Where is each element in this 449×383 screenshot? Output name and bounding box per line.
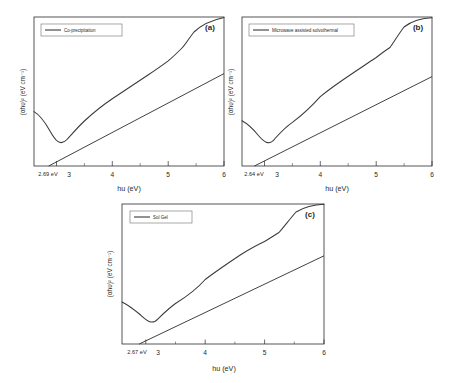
band-gap-annotation-b: 2.64 eV <box>244 171 264 177</box>
x-tick-label-3-b: 3 <box>275 171 279 178</box>
x-tick-label-4-a: 4 <box>110 171 114 178</box>
x-axis-ticks-a <box>57 161 225 166</box>
panel-label-b: (b) <box>413 23 424 32</box>
x-tick-label-3-c: 3 <box>156 349 160 356</box>
legend-label-c: Sol Gel <box>153 215 168 220</box>
x-axis-title-c: hu (eV) <box>212 364 236 373</box>
legend-label-a: Co-precipitation <box>64 28 96 33</box>
panel-c: Sol Gel (c) 2.67 eV 3 4 5 6 hu (eV) (αhυ… <box>98 196 340 382</box>
tauc-fit-line-c <box>139 256 324 344</box>
x-tick-label-4-b: 4 <box>318 171 322 178</box>
x-axis-title-b: hu (eV) <box>325 184 349 193</box>
x-tick-label-5-c: 5 <box>263 349 267 356</box>
legend-label-b: Microwave assisted solvothermal <box>272 28 338 33</box>
tauc-plot-figure: Co-precipitation (a) 2.69 eV 3 4 5 6 hu … <box>0 0 449 383</box>
x-axis-title-a: hu (eV) <box>117 184 141 193</box>
plot-frame-a <box>34 17 224 166</box>
panel-label-a: (a) <box>205 23 215 32</box>
plot-frame-b <box>242 17 432 166</box>
panel-b: Microwave assisted solvothermal (b) 2.64… <box>222 8 438 196</box>
band-gap-annotation-c: 2.67 eV <box>127 349 147 355</box>
plot-frame-c <box>122 204 324 344</box>
x-tick-label-4-c: 4 <box>203 349 207 356</box>
y-axis-title-c: (αhυ)² (eV cm⁻¹) <box>106 251 114 297</box>
y-axis-title-b: (αhυ)² (eV cm⁻¹) <box>227 69 235 115</box>
x-axis-ticks-b <box>265 161 433 166</box>
panel-a: Co-precipitation (a) 2.69 eV 3 4 5 6 hu … <box>14 8 230 196</box>
x-tick-label-6-c: 6 <box>322 349 326 356</box>
panel-label-c: (c) <box>305 210 315 219</box>
x-axis-ticks-c <box>146 340 324 345</box>
tauc-fit-line-a <box>49 74 224 166</box>
legend-b[interactable]: Microwave assisted solvothermal <box>249 24 354 36</box>
x-tick-label-3-a: 3 <box>67 171 71 178</box>
legend-c[interactable]: Sol Gel <box>130 211 192 223</box>
legend-a[interactable]: Co-precipitation <box>41 24 122 36</box>
x-tick-label-6-b: 6 <box>430 171 434 178</box>
y-axis-title-a: (αhυ)² (eV cm⁻¹) <box>19 69 27 115</box>
band-gap-annotation-a: 2.69 eV <box>38 171 58 177</box>
x-tick-label-5-a: 5 <box>166 171 170 178</box>
tauc-fit-line-b <box>254 77 432 166</box>
x-tick-label-5-b: 5 <box>374 171 378 178</box>
